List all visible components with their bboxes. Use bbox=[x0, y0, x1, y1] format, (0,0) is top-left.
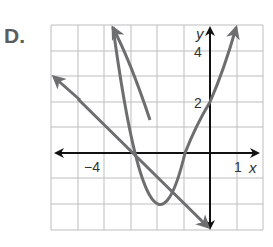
x-tick-neg4: −4 bbox=[84, 159, 100, 175]
y-axis-label: y bbox=[195, 25, 205, 42]
y-tick-4: 4 bbox=[194, 44, 202, 60]
grid bbox=[51, 25, 263, 230]
y-tick-2: 2 bbox=[194, 95, 202, 111]
x-axis-label: x bbox=[248, 159, 257, 176]
x-tick-1: 1 bbox=[234, 159, 242, 175]
graph: y x 4 2 −4 1 bbox=[0, 0, 273, 247]
line-graph bbox=[54, 77, 80, 100]
